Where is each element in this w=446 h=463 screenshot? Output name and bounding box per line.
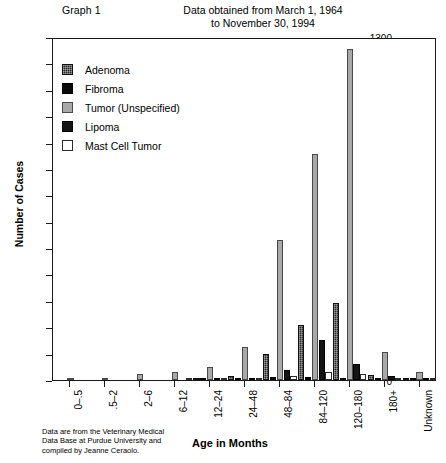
x-tick-label: 180+ xyxy=(388,390,399,413)
bar-lipoma xyxy=(353,364,359,380)
legend-label: Mast Cell Tumor xyxy=(85,140,161,152)
subtitle-line-1: Data obtained from March 1, 1964 xyxy=(148,4,378,17)
graph-number-label: Graph 1 xyxy=(62,4,101,16)
bar-tumor xyxy=(207,367,213,380)
bar-mast xyxy=(395,378,401,380)
x-tick-mark xyxy=(174,381,175,387)
bar-tumor xyxy=(102,378,108,380)
bar-mast xyxy=(325,372,331,380)
bar-fibroma xyxy=(375,378,381,380)
x-tick-label: Unknown xyxy=(423,390,434,432)
bar-fibroma xyxy=(410,378,416,380)
bar-tumor xyxy=(137,374,143,380)
y-tick-mark xyxy=(46,381,52,382)
bar-mast xyxy=(290,376,296,380)
x-tick-label: 2–6 xyxy=(143,390,154,407)
x-tick-mark xyxy=(209,381,210,387)
bar-fibroma xyxy=(235,378,241,380)
legend-swatch-mast-cell-icon xyxy=(62,140,73,151)
bar-lipoma xyxy=(214,378,220,380)
bar-tumor xyxy=(382,352,388,380)
bar-fibroma xyxy=(305,377,311,380)
y-axis: Number of Cases xyxy=(0,0,52,463)
x-tick-mark xyxy=(139,381,140,387)
bar-adenoma xyxy=(368,375,374,380)
subtitle-line-2: to November 30, 1994 xyxy=(148,17,378,30)
bar-fibroma xyxy=(270,377,276,380)
x-tick-label: 6–12 xyxy=(178,390,189,412)
x-tick-mark xyxy=(244,381,245,387)
bar-adenoma xyxy=(263,354,269,380)
x-tick-mark xyxy=(279,381,280,387)
x-tick-mark xyxy=(104,381,105,387)
legend-item: Tumor (Unspecified) xyxy=(62,98,180,117)
legend-item: Adenoma xyxy=(62,60,180,79)
y-axis-title: Number of Cases xyxy=(13,149,25,259)
x-tick-label: 24–48 xyxy=(248,390,259,418)
bar-lipoma xyxy=(284,370,290,380)
x-tick-mark xyxy=(384,381,385,387)
legend-item: Mast Cell Tumor xyxy=(62,136,180,155)
bar-mast xyxy=(430,378,436,380)
legend-label: Lipoma xyxy=(85,121,119,133)
bar-lipoma xyxy=(423,378,429,380)
legend-item: Fibroma xyxy=(62,79,180,98)
bar-tumor xyxy=(242,347,248,380)
legend-label: Adenoma xyxy=(85,64,130,76)
bar-tumor xyxy=(67,378,73,380)
x-tick-mark xyxy=(314,381,315,387)
bar-adenoma xyxy=(333,303,339,380)
legend-swatch-adenoma-icon xyxy=(62,64,73,75)
x-tick-label: 0–.5 xyxy=(73,390,84,409)
bar-tumor xyxy=(312,154,318,380)
x-tick-label: 84–120 xyxy=(318,390,329,423)
bar-lipoma xyxy=(388,376,394,380)
x-tick-label: 12–24 xyxy=(213,390,224,418)
bar-lipoma xyxy=(319,340,325,380)
bar-tumor xyxy=(347,49,353,380)
bar-fibroma xyxy=(200,378,206,380)
legend-swatch-lipoma-icon xyxy=(62,121,73,132)
x-tick-label: .5–2 xyxy=(108,390,119,409)
footnote-line-2: Data Base at Purdue University and xyxy=(42,436,212,445)
bar-adenoma xyxy=(193,378,199,380)
x-tick-label: 120–180 xyxy=(353,390,364,429)
legend: Adenoma Fibroma Tumor (Unspecified) Lipo… xyxy=(62,60,180,155)
bar-mast xyxy=(186,378,192,380)
bar-fibroma xyxy=(340,378,346,380)
bar-mast xyxy=(256,378,262,380)
bar-adenoma xyxy=(403,378,409,380)
x-tick-mark xyxy=(419,381,420,387)
bar-tumor xyxy=(416,372,422,380)
chart-page: Graph 1 Data obtained from March 1, 1964… xyxy=(0,0,446,463)
bar-tumor xyxy=(277,240,283,380)
x-tick-label: 48–84 xyxy=(283,390,294,418)
footnote-line-1: Data are from the Veterinary Medical xyxy=(42,427,212,436)
bar-mast xyxy=(221,378,227,380)
legend-label: Fibroma xyxy=(85,83,124,95)
bar-adenoma xyxy=(228,376,234,380)
bar-tumor xyxy=(172,372,178,380)
legend-swatch-tumor-icon xyxy=(62,102,73,113)
legend-swatch-fibroma-icon xyxy=(62,83,73,94)
legend-item: Lipoma xyxy=(62,117,180,136)
x-tick-mark xyxy=(69,381,70,387)
footnote-line-3: compiled by Jeanne Ceraolo. xyxy=(42,446,212,455)
legend-label: Tumor (Unspecified) xyxy=(85,102,180,114)
footnote: Data are from the Veterinary Medical Dat… xyxy=(42,427,212,455)
x-tick-mark xyxy=(349,381,350,387)
bar-adenoma xyxy=(298,325,304,380)
chart-subtitle: Data obtained from March 1, 1964 to Nove… xyxy=(148,4,378,30)
bar-lipoma xyxy=(249,378,255,380)
bar-mast xyxy=(360,374,366,380)
